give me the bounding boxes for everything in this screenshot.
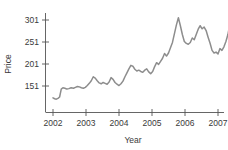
y-tick-label-301: 301 bbox=[25, 15, 39, 25]
x-tick-label-2007: 2007 bbox=[209, 118, 228, 128]
x-axis-title: Year bbox=[124, 135, 141, 145]
x-tick-labels: 2002 2003 2004 2005 2006 2007 bbox=[44, 118, 228, 128]
price-line-series bbox=[53, 9, 228, 99]
price-vs-year-line-chart: 301 251 201 151 2002 2003 2004 2005 2006… bbox=[0, 0, 228, 150]
x-tick-label-2003: 2003 bbox=[77, 118, 96, 128]
y-tick-label-201: 201 bbox=[25, 59, 39, 69]
y-tick-labels: 301 251 201 151 bbox=[25, 15, 39, 91]
y-tick-label-151: 151 bbox=[25, 81, 39, 91]
x-tick-label-2004: 2004 bbox=[110, 118, 129, 128]
chart-container: 301 251 201 151 2002 2003 2004 2005 2006… bbox=[0, 0, 228, 150]
x-tick-label-2005: 2005 bbox=[143, 118, 162, 128]
y-axis-title: Price bbox=[3, 54, 13, 74]
x-tick-label-2006: 2006 bbox=[176, 118, 195, 128]
x-tick-label-2002: 2002 bbox=[44, 118, 63, 128]
y-tick-label-251: 251 bbox=[25, 37, 39, 47]
